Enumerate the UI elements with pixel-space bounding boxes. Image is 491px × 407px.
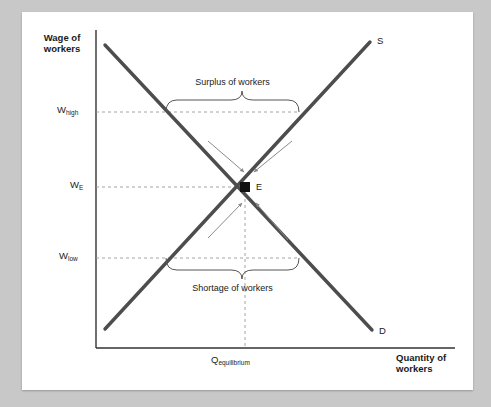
supply-demand-chart bbox=[0, 0, 491, 407]
x-axis-title-line1: Quantity of bbox=[396, 352, 446, 363]
supply-curve-label: S bbox=[377, 36, 383, 47]
y-tick-w-equilibrium: WE bbox=[70, 180, 83, 191]
surplus-brace bbox=[166, 91, 299, 112]
y-tick-w-equilibrium-base: W bbox=[70, 179, 79, 190]
y-tick-w-low-sub: low bbox=[68, 255, 78, 262]
shortage-brace bbox=[166, 258, 299, 279]
shortage-arrows bbox=[208, 203, 288, 240]
equilibrium-point-label: E bbox=[256, 182, 262, 192]
x-axis-title: Quantity of workers bbox=[396, 353, 458, 375]
y-tick-w-equilibrium-sub: E bbox=[79, 184, 83, 191]
y-axis-title-line1: Wage of bbox=[44, 32, 81, 43]
y-tick-w-high-base: W bbox=[57, 104, 66, 115]
shortage-label: Shortage of workers bbox=[172, 283, 293, 293]
y-tick-w-high-sub: high bbox=[66, 109, 78, 116]
y-tick-w-high: Whigh bbox=[57, 105, 78, 116]
surplus-label: Surplus of workers bbox=[176, 77, 289, 87]
demand-curve-label: D bbox=[379, 326, 386, 337]
y-axis-title-line2: workers bbox=[44, 43, 80, 54]
x-axis-title-line2: workers bbox=[396, 363, 432, 374]
y-axis-title: Wage of workers bbox=[34, 33, 90, 55]
equilibrium-marker bbox=[240, 182, 250, 192]
y-tick-w-low: Wlow bbox=[59, 251, 78, 262]
x-tick-q-equilibrium: Qequilibrium bbox=[211, 355, 250, 366]
x-tick-q-equilibrium-sub: equilibrium bbox=[218, 359, 249, 366]
y-tick-w-low-base: W bbox=[59, 250, 68, 261]
